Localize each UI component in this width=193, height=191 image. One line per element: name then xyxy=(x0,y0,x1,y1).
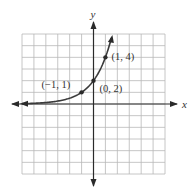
x-axis-arrow-right-icon xyxy=(170,101,178,107)
data-point xyxy=(79,90,83,94)
point-label: (1, 4) xyxy=(111,51,134,63)
y-axis-arrow-down-icon xyxy=(91,179,97,187)
curve-arrow-up-icon xyxy=(108,35,114,43)
x-axis-label: x xyxy=(181,98,187,110)
curve-arrow-left-icon xyxy=(20,101,28,107)
data-point xyxy=(103,55,107,59)
exponential-graph: (−1, 1)(0, 2)(1, 4) x y xyxy=(0,0,193,191)
point-label: (0, 2) xyxy=(100,83,123,95)
point-label: (−1, 1) xyxy=(42,79,71,91)
curve-line xyxy=(22,38,111,104)
data-point xyxy=(91,78,95,82)
x-axis-arrow-left-icon xyxy=(11,101,19,107)
y-axis-arrow-up-icon xyxy=(91,21,97,29)
y-axis-label: y xyxy=(90,8,96,20)
